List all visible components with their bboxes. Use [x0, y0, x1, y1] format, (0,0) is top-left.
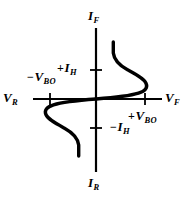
symbol-v: V: [135, 108, 144, 123]
symbol-i: I: [117, 119, 122, 134]
minus-sign: −: [27, 70, 34, 84]
subscript-h: H: [123, 126, 130, 136]
subscript-r: R: [12, 97, 18, 107]
axis-label-reverse-current: IR: [88, 176, 99, 189]
axis-label-negative-breakover-voltage: −VBO: [27, 70, 55, 83]
symbol-v: V: [34, 69, 43, 84]
subscript-r: R: [93, 182, 99, 192]
subscript-bo: BO: [44, 76, 56, 86]
subscript-h: H: [70, 67, 77, 77]
subscript-bo: BO: [145, 115, 157, 125]
symbol-v-reverse: V: [3, 90, 12, 105]
symbol-v-forward: V: [165, 90, 174, 105]
subscript-f: F: [174, 97, 180, 107]
symbol-i: I: [64, 60, 69, 75]
plus-sign: +: [57, 61, 64, 75]
axis-label-positive-breakover-voltage: +VBO: [128, 109, 156, 122]
axis-label-positive-holding-current: +IH: [57, 61, 76, 74]
subscript-f: F: [93, 15, 99, 25]
reverse-characteristic-curve: [45, 99, 96, 156]
axis-label-forward-voltage: VF: [165, 91, 180, 104]
forward-characteristic-curve: [96, 42, 147, 99]
diac-characteristic-figure: IF IR VR VF −VBO +VBO +IH −IH: [0, 0, 193, 197]
axis-label-reverse-voltage: VR: [3, 91, 18, 104]
axis-label-negative-holding-current: −IH: [110, 120, 129, 133]
axis-label-forward-current: IF: [88, 9, 99, 22]
minus-sign: −: [110, 120, 117, 134]
